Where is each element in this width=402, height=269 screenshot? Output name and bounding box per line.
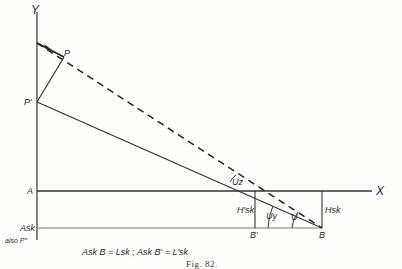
dashed-projection-line — [37, 43, 322, 228]
pprime-to-b-line — [37, 102, 322, 228]
hsk-label: Hsk — [325, 206, 341, 215]
point-b-prime-label: B′ — [250, 231, 258, 240]
point-p-label: P — [64, 49, 70, 58]
p-to-pprime-line — [37, 57, 64, 102]
x-axis-label: X — [376, 185, 384, 197]
figure-caption: Fig. 82. — [186, 259, 218, 269]
arrow-line — [37, 43, 64, 57]
equation-text: Ask B = Lsk ; Ask B′ = L′sk — [82, 248, 188, 257]
angle-u-label: U — [291, 213, 298, 222]
y-axis-label: Y — [31, 4, 39, 16]
arrow-head-icon — [44, 44, 52, 50]
angle-uz-label: Uz — [232, 178, 243, 187]
diagram-lines — [0, 0, 402, 269]
angle-uy-label: Uy — [266, 212, 277, 221]
point-a-label: A — [27, 187, 33, 196]
point-ask-label: Ask — [20, 224, 35, 233]
figure-82: Y X P P′ A Ask also P″ B B′ Hsk H′sk U U… — [0, 0, 402, 269]
point-p-prime-label: P′ — [24, 98, 32, 107]
also-p2-label: also P″ — [5, 237, 27, 244]
hsk-prime-label: H′sk — [237, 206, 254, 215]
point-b-label: B — [319, 231, 325, 240]
